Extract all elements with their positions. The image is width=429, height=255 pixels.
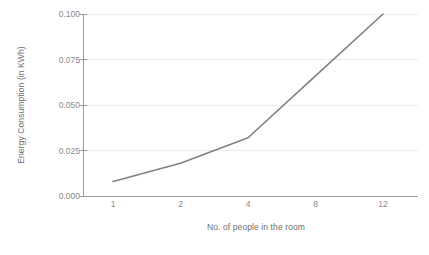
series-line-energy-consumption xyxy=(113,14,383,181)
plot-area xyxy=(0,0,429,255)
line-chart: Energy Consumption (in KWh) 0.0000.0250.… xyxy=(0,0,429,255)
data-series-line xyxy=(113,14,383,181)
gridlines xyxy=(83,14,418,196)
